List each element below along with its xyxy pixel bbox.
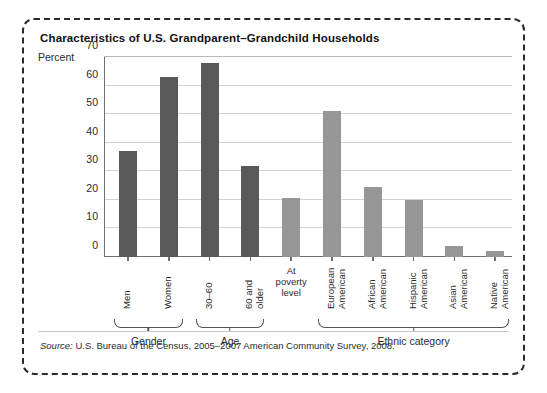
x-axis-category-label: American	[499, 269, 510, 309]
x-axis-category-label: American	[458, 269, 469, 309]
x-axis-tick	[372, 257, 374, 261]
x-axis-category-label: Men	[121, 291, 132, 309]
x-axis-category-label: American	[336, 269, 347, 309]
x-axis-category-label: Native	[488, 282, 499, 309]
y-axis-tick-label: 10	[52, 210, 98, 222]
y-axis-tick-label: 20	[52, 182, 98, 194]
bar	[323, 111, 341, 257]
x-axis-category-label: 60 and	[243, 280, 254, 309]
group-bracket	[196, 319, 265, 328]
x-axis-tick	[290, 257, 292, 261]
bar	[160, 77, 178, 257]
bar	[119, 151, 137, 257]
y-axis-tick-label: 50	[52, 96, 98, 108]
figure-panel: Characteristics of U.S. Grandparent–Gran…	[22, 18, 525, 375]
x-axis-tick	[209, 257, 211, 261]
bar	[364, 187, 382, 257]
bar	[201, 63, 219, 257]
plot-area: 010203040506070 MenWomen30–6060 andolder…	[104, 57, 512, 257]
y-axis-tick-label: 30	[52, 153, 98, 165]
x-axis-category-label: American	[418, 269, 429, 309]
group-bracket	[318, 319, 509, 328]
group-bracket	[114, 319, 183, 328]
bar	[241, 166, 259, 257]
source-divider	[38, 331, 509, 332]
y-axis-tick-label: 40	[52, 125, 98, 137]
x-axis-category-label: Hispanic	[407, 273, 418, 309]
x-axis-tick	[454, 257, 456, 261]
x-axis-category-label: African	[366, 279, 377, 309]
y-axis-tick-label: 70	[52, 39, 98, 51]
x-axis-tick	[494, 257, 496, 261]
x-axis-category-label: Women	[162, 276, 173, 309]
source-label: Source:	[40, 340, 73, 351]
x-axis-tick	[413, 257, 415, 261]
x-axis-tick	[127, 257, 129, 261]
x-axis-category-label: Atpovertylevel	[261, 265, 321, 299]
x-axis-tick	[250, 257, 252, 261]
source-note: Source: U.S. Bureau of the Census, 2005–…	[40, 340, 395, 351]
bar	[282, 198, 300, 257]
x-axis-category-label: European	[325, 268, 336, 309]
y-axis-tick-label: 60	[52, 68, 98, 80]
x-axis-category-label: 30–60	[203, 283, 214, 309]
x-axis-category-label: American	[377, 269, 388, 309]
y-axis-title: Percent	[38, 51, 74, 63]
y-axis-tick-label: 0	[52, 239, 98, 251]
x-axis-tick	[331, 257, 333, 261]
source-text: U.S. Bureau of the Census, 2005–2007 Ame…	[73, 340, 395, 351]
bar	[445, 246, 463, 257]
x-axis-tick	[168, 257, 170, 261]
bar	[405, 200, 423, 257]
x-axis-category-label: Asian	[447, 285, 458, 309]
